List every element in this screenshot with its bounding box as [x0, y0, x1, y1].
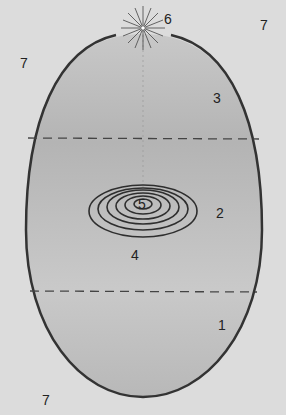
egg-diagram: 1 2 3 4 5 6 7 7 7 — [0, 0, 286, 415]
egg-shell — [26, 34, 262, 397]
label-outside-top-right: 7 — [260, 18, 268, 32]
label-region-3: 3 — [213, 91, 221, 105]
label-outside-bottom-left: 7 — [42, 393, 50, 407]
label-spiral-outer: 4 — [131, 248, 139, 262]
label-region-1: 1 — [218, 318, 226, 332]
label-outside-left: 7 — [20, 56, 28, 70]
label-star: 6 — [164, 12, 172, 26]
label-region-2: 2 — [216, 206, 224, 220]
label-spiral-center: 5 — [138, 197, 146, 211]
